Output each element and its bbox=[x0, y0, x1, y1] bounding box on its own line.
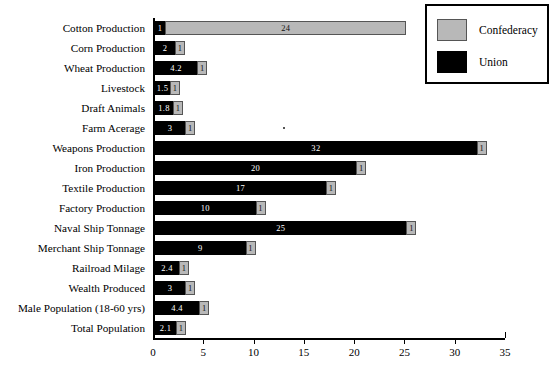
stacked-bar: 2.41 bbox=[155, 261, 189, 275]
bar-value-label: 4.2 bbox=[170, 64, 182, 73]
bar-value-label: 1 bbox=[158, 24, 163, 33]
bar-value-label: 2.4 bbox=[161, 264, 173, 273]
category-label: Merchant Ship Tonnage bbox=[0, 238, 149, 258]
bar-segment-union: 1.5 bbox=[155, 81, 170, 95]
x-axis-tick-label: 0 bbox=[150, 346, 156, 358]
category-label: Cotton Production bbox=[0, 18, 149, 38]
bar-value-label: 1 bbox=[359, 164, 364, 173]
stacked-bar: 321 bbox=[155, 141, 487, 155]
x-axis-tick-label: 5 bbox=[201, 346, 207, 358]
bar-value-label: 1 bbox=[248, 244, 253, 253]
bar-segment-union: 1 bbox=[155, 21, 165, 35]
bar-segment-union: 32 bbox=[155, 141, 477, 155]
category-label: Railroad Milage bbox=[0, 258, 149, 278]
bar-segment-confederacy: 1 bbox=[406, 221, 416, 235]
bar-value-label: 2 bbox=[163, 44, 168, 53]
x-axis-tick bbox=[304, 338, 305, 344]
bar-segment-confederacy: 1 bbox=[185, 281, 195, 295]
bar-segment-union: 2.4 bbox=[155, 261, 179, 275]
x-axis-tick-label: 25 bbox=[399, 346, 410, 358]
bar-segment-confederacy: 1 bbox=[173, 101, 183, 115]
category-label: Iron Production bbox=[0, 158, 149, 178]
bar-value-label: 4.4 bbox=[171, 304, 183, 313]
category-label: Weapons Production bbox=[0, 138, 149, 158]
bar-value-label: 1 bbox=[179, 324, 184, 333]
bar-value-label: 1 bbox=[182, 264, 187, 273]
bar-segment-confederacy: 1 bbox=[199, 301, 209, 315]
legend-item-union: Union bbox=[437, 46, 547, 78]
bar-segment-union: 4.2 bbox=[155, 61, 197, 75]
x-axis-tick-label: 35 bbox=[500, 346, 511, 358]
bar-segment-confederacy: 1 bbox=[197, 61, 207, 75]
stacked-bar: 101 bbox=[155, 201, 266, 215]
category-label: Farm Acerage bbox=[0, 118, 149, 138]
civil-war-resources-bar-chart: Cotton ProductionCorn ProductionWheat Pr… bbox=[0, 0, 556, 378]
bar-value-label: 1 bbox=[178, 44, 183, 53]
x-axis-tick-label: 30 bbox=[449, 346, 460, 358]
bar-segment-union: 9 bbox=[155, 241, 246, 255]
bar-segment-union: 17 bbox=[155, 181, 326, 195]
bar-value-label: 3 bbox=[168, 284, 173, 293]
bar-segment-confederacy: 24 bbox=[165, 21, 406, 35]
stray-speck bbox=[283, 127, 285, 129]
bar-value-label: 1 bbox=[188, 124, 193, 133]
bar-row: 2.41 bbox=[155, 258, 507, 278]
bar-segment-union: 3 bbox=[155, 281, 185, 295]
legend-label-confederacy: Confederacy bbox=[479, 24, 538, 36]
bar-segment-confederacy: 1 bbox=[175, 41, 185, 55]
legend-swatch-union-icon bbox=[437, 51, 467, 73]
bar-segment-union: 4.4 bbox=[155, 301, 199, 315]
bar-value-label: 1 bbox=[202, 304, 207, 313]
bar-segment-confederacy: 1 bbox=[326, 181, 336, 195]
x-axis-tick bbox=[455, 338, 456, 344]
bar-segment-confederacy: 1 bbox=[179, 261, 189, 275]
bar-value-label: 20 bbox=[251, 164, 260, 173]
bar-segment-confederacy: 1 bbox=[256, 201, 266, 215]
bar-value-label: 1 bbox=[480, 144, 485, 153]
bar-value-label: 17 bbox=[236, 184, 245, 193]
stacked-bar: 91 bbox=[155, 241, 256, 255]
stacked-bar: 2.11 bbox=[155, 321, 186, 335]
bar-value-label: 1 bbox=[409, 224, 414, 233]
bar-value-label: 1 bbox=[200, 64, 205, 73]
bar-segment-union: 3 bbox=[155, 121, 185, 135]
x-axis-tick-label: 20 bbox=[349, 346, 360, 358]
bar-value-label: 32 bbox=[311, 144, 320, 153]
bar-value-label: 1 bbox=[176, 104, 181, 113]
legend-item-confederacy: Confederacy bbox=[437, 14, 547, 46]
bar-row: 31 bbox=[155, 118, 507, 138]
bar-segment-union: 2 bbox=[155, 41, 175, 55]
bar-value-label: 24 bbox=[281, 24, 290, 33]
bar-segment-confederacy: 1 bbox=[170, 81, 180, 95]
bar-value-label: 1.5 bbox=[157, 84, 169, 93]
x-axis: 05101520253035 bbox=[153, 338, 505, 340]
bar-segment-confederacy: 1 bbox=[246, 241, 256, 255]
bar-row: 4.41 bbox=[155, 298, 507, 318]
bar-row: 31 bbox=[155, 278, 507, 298]
stacked-bar: 1.51 bbox=[155, 81, 180, 95]
x-axis-tick bbox=[404, 338, 405, 344]
bar-row: 91 bbox=[155, 238, 507, 258]
x-axis-tick bbox=[254, 338, 255, 344]
bar-row: 171 bbox=[155, 178, 507, 198]
category-label: Wealth Produced bbox=[0, 278, 149, 298]
bar-value-label: 1 bbox=[173, 84, 178, 93]
bar-segment-union: 1.8 bbox=[155, 101, 173, 115]
stacked-bar: 31 bbox=[155, 121, 195, 135]
stacked-bar: 21 bbox=[155, 41, 185, 55]
category-label: Factory Production bbox=[0, 198, 149, 218]
stacked-bar: 1.81 bbox=[155, 101, 183, 115]
bar-value-label: 1.8 bbox=[158, 104, 170, 113]
stacked-bar: 124 bbox=[155, 21, 406, 35]
bar-segment-confederacy: 1 bbox=[185, 121, 195, 135]
bar-segment-confederacy: 1 bbox=[176, 321, 186, 335]
stacked-bar: 171 bbox=[155, 181, 336, 195]
stacked-bar: 201 bbox=[155, 161, 366, 175]
category-label: Draft Animals bbox=[0, 98, 149, 118]
bar-segment-union: 25 bbox=[155, 221, 406, 235]
category-label: Textile Production bbox=[0, 178, 149, 198]
bar-segment-union: 20 bbox=[155, 161, 356, 175]
bar-value-label: 10 bbox=[201, 204, 210, 213]
bar-row: 101 bbox=[155, 198, 507, 218]
bar-value-label: 9 bbox=[198, 244, 203, 253]
